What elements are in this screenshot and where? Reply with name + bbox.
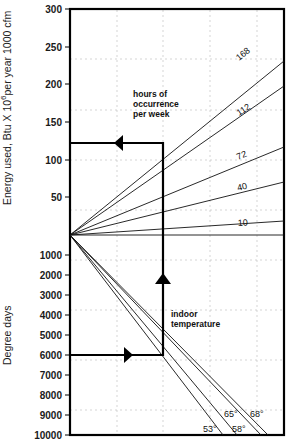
tick-label: 1000 bbox=[40, 250, 63, 261]
dd-tick: 2000 bbox=[40, 270, 70, 281]
arrow-up-icon bbox=[155, 273, 171, 284]
dd-tick: 8000 bbox=[40, 390, 70, 401]
tick-label: 200 bbox=[45, 79, 62, 90]
line-10 bbox=[70, 221, 284, 235]
nomograph-chart: 300 250 200 150 100 50 1000 2000 3000 40… bbox=[0, 0, 288, 446]
svg-text:indoor: indoor bbox=[171, 309, 198, 319]
tick-label: 10000 bbox=[34, 430, 62, 441]
arrow-right-icon bbox=[124, 347, 133, 363]
degree-days-axis: 1000 2000 3000 4000 5000 6000 7000 8000 … bbox=[34, 250, 70, 441]
energy-axis-title: Energy used, Btu X 106per year 1000 cfm bbox=[0, 11, 13, 205]
svg-text:per week: per week bbox=[133, 109, 170, 119]
dd-tick: 10000 bbox=[34, 430, 70, 441]
label-10: 10 bbox=[237, 217, 248, 228]
label-58: 58° bbox=[232, 424, 246, 434]
energy-axis: 300 250 200 150 100 50 bbox=[45, 4, 70, 203]
tick-label: 50 bbox=[51, 192, 63, 203]
dd-tick: 6000 bbox=[40, 350, 70, 361]
arrow-left-icon bbox=[114, 135, 123, 151]
energy-tick: 50 bbox=[51, 192, 70, 203]
tick-label: 6000 bbox=[40, 350, 63, 361]
line-68 bbox=[70, 235, 268, 435]
temperature-lines bbox=[70, 235, 268, 435]
energy-tick: 200 bbox=[45, 79, 70, 90]
label-68: 68° bbox=[250, 409, 264, 419]
energy-tick: 100 bbox=[45, 155, 70, 166]
svg-text:occurrence: occurrence bbox=[133, 99, 179, 109]
dd-tick: 3000 bbox=[40, 290, 70, 301]
dd-tick: 9000 bbox=[40, 410, 70, 421]
svg-text:hours of: hours of bbox=[133, 89, 167, 99]
line-65 bbox=[70, 235, 261, 435]
dd-tick: 4000 bbox=[40, 310, 70, 321]
label-53: 53° bbox=[203, 424, 217, 434]
example-path bbox=[70, 135, 171, 363]
energy-tick: 150 bbox=[45, 117, 70, 128]
tick-label: 7000 bbox=[40, 370, 63, 381]
tick-label: 9000 bbox=[40, 410, 63, 421]
hours-note: hours of occurrence per week bbox=[133, 89, 179, 119]
tick-label: 8000 bbox=[40, 390, 63, 401]
line-53 bbox=[70, 235, 223, 435]
label-168: 168 bbox=[234, 45, 252, 62]
hours-lines bbox=[70, 61, 284, 235]
tick-label: 3000 bbox=[40, 290, 63, 301]
dd-tick: 1000 bbox=[40, 250, 70, 261]
label-112: 112 bbox=[235, 101, 252, 117]
tick-label: 250 bbox=[45, 42, 62, 53]
label-65: 65° bbox=[224, 409, 238, 419]
dd-tick: 5000 bbox=[40, 330, 70, 341]
tick-label: 5000 bbox=[40, 330, 63, 341]
tick-label: 2000 bbox=[40, 270, 63, 281]
degree-days-axis-title: Degree days bbox=[1, 305, 13, 365]
tick-label: 150 bbox=[45, 117, 62, 128]
energy-tick: 250 bbox=[45, 42, 70, 53]
svg-text:temperature: temperature bbox=[171, 319, 220, 329]
dd-tick: 7000 bbox=[40, 370, 70, 381]
line-58 bbox=[70, 235, 237, 435]
tick-label: 100 bbox=[45, 155, 62, 166]
temperature-note: indoor temperature bbox=[171, 309, 220, 329]
tick-label: 300 bbox=[45, 4, 62, 15]
energy-tick: 300 bbox=[45, 4, 70, 15]
tick-label: 4000 bbox=[40, 310, 63, 321]
